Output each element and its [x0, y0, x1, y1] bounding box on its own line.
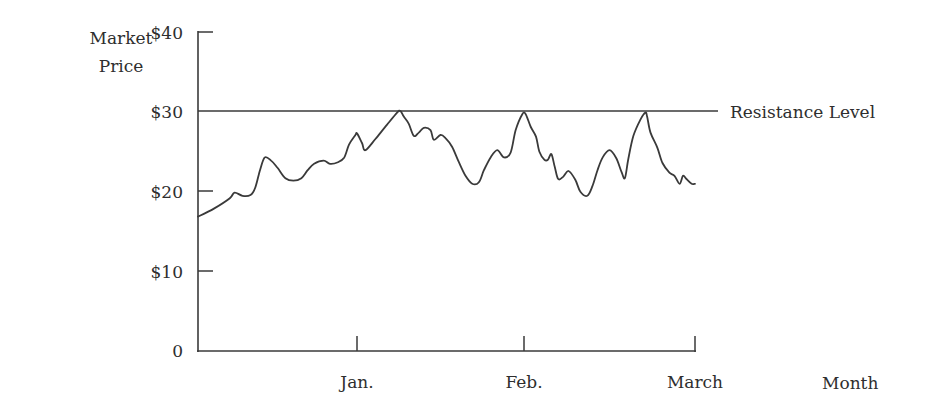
y-tick-label-0: 0: [123, 341, 183, 361]
y-tick-label-40: $40: [123, 23, 183, 43]
x-tick-label-feb: Feb.: [484, 372, 564, 392]
y-tick-label-30: $30: [123, 102, 183, 122]
resistance-level-label: Resistance Level: [730, 102, 875, 122]
x-tick-label-jan: Jan.: [317, 372, 397, 392]
y-axis-label-line2: Price: [86, 52, 156, 80]
y-tick-label-20: $20: [123, 182, 183, 202]
x-tick-label-march: March: [655, 372, 735, 392]
y-tick-label-10: $10: [123, 262, 183, 282]
x-axis-label: Month: [822, 373, 878, 393]
price-line: [198, 111, 695, 217]
